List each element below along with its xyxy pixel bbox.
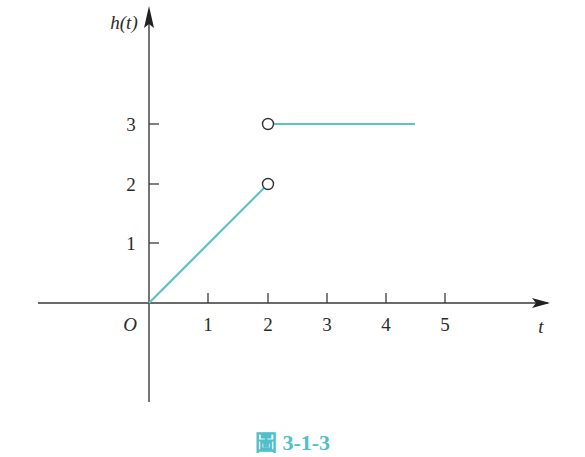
x-tick-label: 3 — [322, 314, 332, 335]
series-segment-1 — [149, 188, 264, 303]
x-axis-label: t — [538, 316, 544, 337]
x-tick-label: 4 — [381, 314, 391, 335]
figure-caption: 圖 3-1-3 — [0, 424, 585, 456]
y-ticks — [149, 124, 159, 243]
y-tick-label: 2 — [126, 174, 136, 195]
y-tick-label: 3 — [126, 114, 136, 135]
origin-label: O — [123, 314, 137, 335]
x-tick-label: 2 — [263, 314, 273, 335]
open-point-marker — [263, 179, 274, 190]
x-ticks — [208, 293, 445, 303]
y-axis-label: h(t) — [110, 12, 137, 34]
caption-text: 圖 3-1-3 — [255, 430, 330, 455]
x-tick-label: 5 — [440, 314, 450, 335]
chart: 1 2 3 4 5 1 2 3 O t h(t) — [0, 0, 585, 457]
open-point-marker — [263, 119, 274, 130]
x-tick-label: 1 — [203, 314, 213, 335]
y-tick-label: 1 — [126, 233, 136, 254]
